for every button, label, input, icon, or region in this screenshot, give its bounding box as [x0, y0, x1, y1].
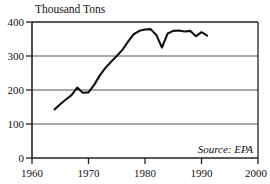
xtick-label-1990: 1990: [191, 167, 214, 179]
ytick-label-0: 0: [19, 152, 25, 164]
y-tick-marks: [26, 22, 32, 158]
xtick-label-1960: 1960: [21, 167, 44, 179]
ytick-label-300: 300: [8, 50, 25, 62]
gridlines: [32, 56, 258, 124]
ytick-label-200: 200: [8, 84, 25, 96]
chart-container: 400 300 200 100 0 1960 1970 1980 1990 20…: [0, 0, 270, 184]
line-chart: 400 300 200 100 0 1960 1970 1980 1990 20…: [0, 0, 270, 184]
ytick-label-100: 100: [8, 118, 25, 130]
source-annotation: Source: EPA: [198, 143, 254, 155]
y-tick-labels: 400 300 200 100 0: [8, 16, 25, 164]
xtick-label-2000: 2000: [245, 167, 268, 179]
xtick-label-1980: 1980: [134, 167, 157, 179]
ytick-label-400: 400: [8, 16, 25, 28]
data-series-line: [55, 29, 208, 109]
x-tick-labels: 1960 1970 1980 1990 2000: [21, 167, 268, 179]
xtick-label-1970: 1970: [78, 167, 101, 179]
chart-title: Thousand Tons: [35, 3, 106, 15]
x-tick-marks: [32, 158, 258, 164]
